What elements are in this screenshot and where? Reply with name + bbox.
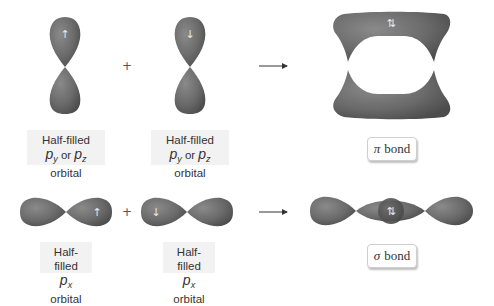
py-pz-orbital-2: ↓: [175, 17, 206, 114]
label-line1: Half-filled: [167, 245, 211, 273]
pi-symbol: π: [374, 141, 381, 157]
label-py-pz-orbital-2: Half-filled py or pz orbital: [151, 130, 229, 165]
label-line2: px orbital: [167, 273, 211, 306]
label-line1: Half-filled: [31, 133, 101, 147]
label-line1: Half-filled: [155, 133, 225, 147]
px-orbital-1: ↑: [20, 198, 112, 226]
sigma-bond-orbital: ⇅: [310, 197, 473, 225]
spin-up-icon: ↑: [92, 206, 101, 219]
label-px-orbital-2: Half-filled px orbital: [163, 242, 215, 273]
label-line2: px orbital: [44, 273, 88, 306]
label-px-orbital-1: Half-filled px orbital: [40, 242, 92, 273]
spin-up-icon: ↑: [60, 28, 69, 41]
sigma-symbol: σ: [374, 248, 380, 264]
bond-text: bond: [384, 141, 410, 157]
label-py-pz-orbital-1: Half-filled py or pz orbital: [27, 130, 105, 165]
label-line2: py or pz orbital: [155, 147, 225, 180]
spin-down-icon: ↓: [151, 206, 160, 219]
plus-sign: +: [122, 205, 132, 219]
sigma-bond-label: σbond: [367, 244, 417, 268]
bond-text: bond: [384, 248, 410, 264]
spin-pair-icon: ⇅: [386, 205, 395, 218]
spin-down-icon: ↓: [185, 28, 194, 41]
label-line2: py or pz orbital: [31, 147, 101, 180]
pi-bond-orbital: ⇅: [333, 12, 450, 120]
label-line1: Half-filled: [44, 245, 88, 273]
py-pz-orbital-1: ↑: [50, 17, 81, 114]
spin-pair-icon: ⇅: [386, 17, 395, 30]
plus-sign: +: [122, 59, 132, 73]
pi-bond-label: πbond: [367, 137, 417, 161]
px-orbital-2: ↓: [141, 198, 233, 226]
